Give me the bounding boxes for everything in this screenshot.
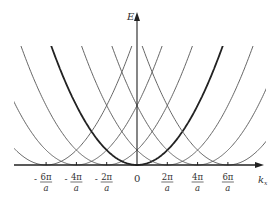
svg-text:6π: 6π: [41, 172, 52, 182]
svg-text:a: a: [165, 183, 170, 193]
svg-text:4π: 4π: [71, 172, 82, 182]
svg-text:2π: 2π: [101, 172, 112, 182]
svg-text:a: a: [74, 183, 79, 193]
tick-label: -2πa: [95, 172, 113, 193]
parabola-curve: [98, 3, 279, 165]
parabola-curve: [0, 3, 146, 165]
tick-label: 2πa: [161, 172, 173, 193]
e-axis-arrow-icon: [134, 12, 140, 21]
svg-text:6π: 6π: [222, 172, 233, 182]
svg-text:a: a: [225, 183, 230, 193]
svg-text:2π: 2π: [162, 172, 173, 182]
parabola-curve: [128, 3, 279, 165]
origin-label: 0: [134, 173, 140, 184]
svg-text:-: -: [34, 174, 37, 184]
tick-label: 4πa: [192, 172, 204, 193]
svg-text:a: a: [195, 183, 200, 193]
svg-text:-: -: [95, 174, 98, 184]
tick-label: 6πa: [222, 172, 234, 193]
tick-label: -4πa: [64, 172, 82, 193]
svg-text:a: a: [104, 183, 109, 193]
parabola-curve: [0, 3, 176, 165]
svg-text:4π: 4π: [192, 172, 203, 182]
band-diagram: E kx 0 -6πa-4πa-2πa2πa4πa6πa: [0, 0, 279, 203]
tick-label: -6πa: [34, 172, 52, 193]
e-axis-label: E: [126, 11, 135, 22]
parabola-curves: [0, 3, 279, 165]
k-axis-arrow-icon: [255, 162, 264, 168]
svg-text:-: -: [64, 174, 67, 184]
svg-text:a: a: [44, 183, 49, 193]
k-axis-label: kx: [258, 174, 268, 186]
